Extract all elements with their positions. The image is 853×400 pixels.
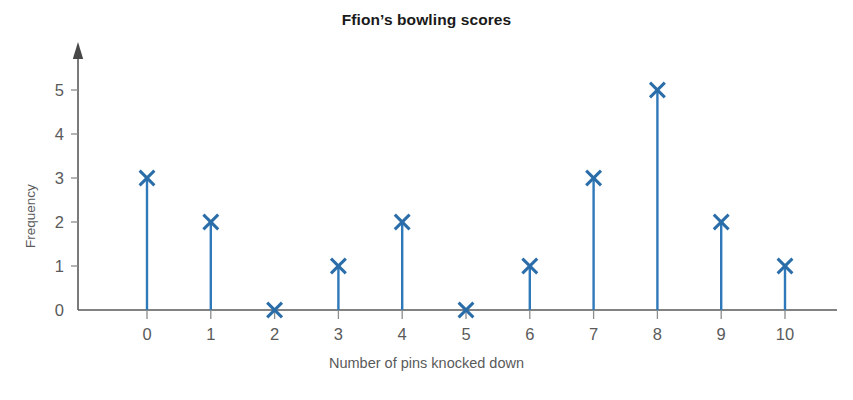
data-point [778,259,793,310]
y-axis-title: Frequency [23,184,38,248]
chart-canvas: Ffion’s bowling scores 01234501234567891… [0,0,853,400]
y-axis-tick-label: 1 [55,257,64,275]
y-axis-tick-label: 4 [55,125,64,143]
x-axis-tick-label: 5 [461,325,470,343]
x-axis-tick-label: 1 [206,325,215,343]
x-axis-title: Number of pins knocked down [0,355,853,371]
x-axis-tick-label: 2 [270,325,279,343]
x-axis-tick-label: 4 [398,325,407,343]
y-axis-tick-label: 2 [55,213,64,231]
y-axis-tick-label: 5 [55,81,64,99]
x-axis-tick-label: 3 [334,325,343,343]
y-axis-tick-label: 0 [55,301,64,319]
x-axis-tick-label: 10 [776,325,794,343]
data-point [395,215,410,310]
x-axis-tick-label: 6 [525,325,534,343]
data-point [714,215,729,310]
y-axis-arrow-icon [73,42,83,59]
data-point [203,215,218,310]
x-axis-tick-label: 9 [717,325,726,343]
data-point [650,83,665,310]
data-point [140,171,155,310]
data-point [331,259,346,310]
data-point [522,259,537,310]
x-axis-tick-label: 0 [142,325,151,343]
y-axis-tick-label: 3 [55,169,64,187]
x-axis-tick-label: 7 [589,325,598,343]
vertical-line-graph-plot: 012345012345678910 [0,0,853,400]
x-axis-tick-label: 8 [653,325,662,343]
data-point [586,171,601,310]
